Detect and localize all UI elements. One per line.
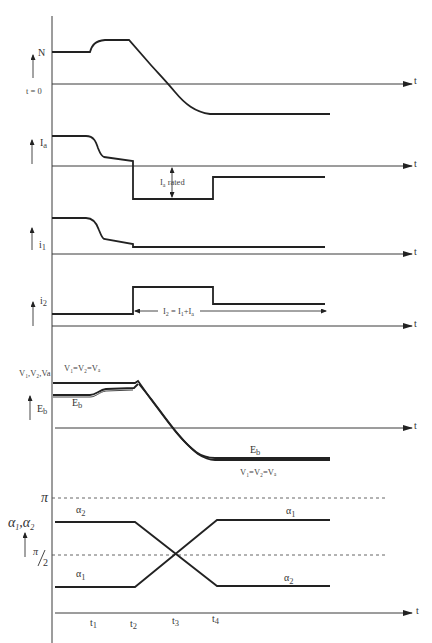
back-emf-trace (53, 384, 138, 395)
alpha1-label-right: α1 (286, 505, 296, 519)
eb-axis-label: Eb (37, 403, 47, 416)
eb-label-right: Eb (250, 444, 260, 457)
eb-label-left: Eb (72, 397, 82, 410)
panel-current-1: t i1 (32, 218, 417, 257)
time-axis-label: t (414, 75, 417, 86)
panel-armature-current: t Ia Ia rated (32, 136, 417, 199)
time-axis-label: t (414, 246, 417, 257)
time-axis-label: t (414, 158, 417, 169)
armature-current-label: Ia (40, 137, 47, 150)
time-marker-t3: t3 (172, 615, 179, 628)
speed-label: N (38, 47, 45, 58)
pi-half-numerator: π (33, 546, 39, 557)
panel-voltages: t V₁,V₂,Va V₁=V₂=Vₐ Eb Eb Eb V₁=V₂=Vₐ (19, 363, 417, 477)
current-1-trace (52, 218, 325, 247)
time-marker-t4: t4 (212, 613, 220, 626)
current-2-label: i2 (40, 295, 47, 308)
voltage-equal-label-top: V₁=V₂=Vₐ (64, 363, 101, 373)
voltage-trace (53, 381, 330, 458)
voltage-equal-label-bottom: V₁=V₂=Vₐ (240, 467, 277, 477)
alpha-axis-label: α1,α2 (8, 515, 34, 532)
panel-firing-angles: π π 2 α1,α2 α2 α1 α1 α2 t t1 t2 t3 t4 (8, 490, 419, 631)
panel-current-2: t i2 I2 = I1+Ia (33, 287, 417, 329)
speed-trace (52, 40, 330, 114)
pi-label: π (41, 490, 49, 505)
back-emf-trace-inner (53, 390, 133, 397)
alpha2-label-right: α2 (284, 572, 294, 586)
armature-current-trace (52, 136, 325, 199)
time-marker-t1: t1 (90, 617, 97, 630)
time-axis-label: t (414, 318, 417, 329)
alpha2-label-left: α2 (76, 504, 86, 518)
pi-half-denominator: 2 (43, 557, 48, 568)
ia-rated-label: Ia rated (160, 177, 185, 188)
time-axis-label: t (414, 420, 417, 431)
time-origin-label: t = 0 (26, 86, 42, 96)
time-marker-t2: t2 (130, 618, 137, 631)
panel-speed: t N t = 0 (26, 40, 417, 114)
waveform-diagram: t N t = 0 t Ia Ia rated t i1 t i2 I2 = I… (0, 0, 432, 643)
alpha1-label-left: α1 (76, 568, 86, 582)
time-axis-label: t (416, 605, 419, 616)
current-1-label: i1 (39, 239, 46, 252)
i2-equation-label: I2 = I1+Ia (163, 306, 194, 317)
voltage-axis-label: V₁,V₂,Va (19, 368, 51, 378)
